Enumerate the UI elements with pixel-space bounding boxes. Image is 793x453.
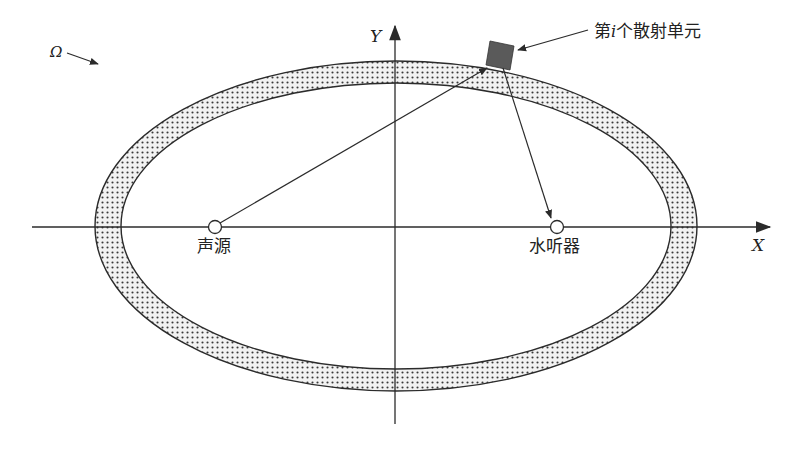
y-axis-label: Y: [370, 28, 381, 45]
scatter-label-prefix: 第: [594, 21, 611, 41]
region-leader: [67, 53, 98, 64]
diagram-svg: [0, 0, 793, 453]
x-axis-label: X: [752, 237, 764, 254]
element-leader: [518, 30, 588, 50]
source-marker: [209, 221, 222, 234]
scatter-element: [486, 41, 514, 70]
scatter-element-label: 第i个散射单元: [594, 23, 701, 40]
source-label: 声源: [197, 238, 231, 255]
region-label: Ω: [50, 45, 62, 60]
receiver-marker: [551, 221, 564, 234]
inner-boundary: [121, 83, 671, 369]
receiver-label: 水听器: [529, 238, 580, 255]
scattering-band: [95, 61, 697, 391]
scatter-label-suffix: 个散射单元: [616, 21, 701, 41]
diagram-canvas: Y X Ω 声源 水听器 第i个散射单元: [0, 0, 793, 453]
